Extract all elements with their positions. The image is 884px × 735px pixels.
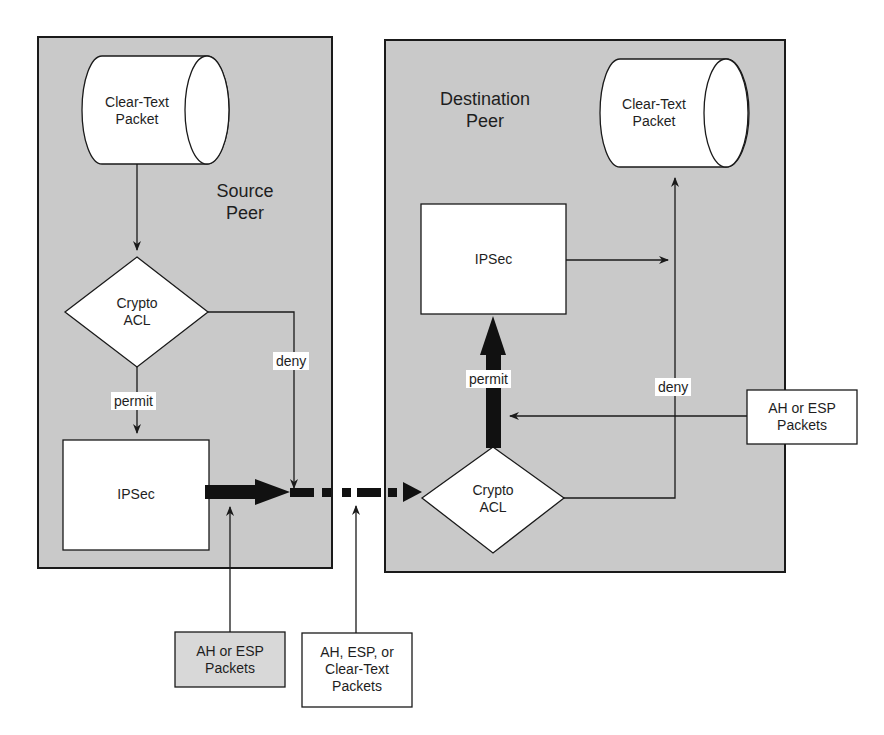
destination-cylinder-label-line1: Clear-Text [606,96,702,113]
transit-callout-line2: Clear-Text [302,661,412,678]
destination-acl-label-line2: ACL [453,499,533,516]
source-cylinder-label: Clear-Text Packet [90,94,184,128]
source-acl-label-line2: ACL [97,312,177,329]
destination-input-callout-line1: AH or ESP [747,400,857,417]
destination-peer-title-line1: Destination [420,88,550,110]
source-cylinder-label-line2: Packet [90,111,184,128]
source-acl-label: Crypto ACL [97,295,177,329]
source-acl-label-line1: Crypto [97,295,177,312]
destination-cylinder-label-line2: Packet [606,113,702,130]
transit-callout-line3: Packets [302,678,412,695]
destination-cylinder-label: Clear-Text Packet [606,96,702,130]
source-output-callout-line1: AH or ESP [175,643,285,660]
destination-acl-label-line1: Crypto [453,482,533,499]
source-permit-label: permit [111,392,156,410]
destination-permit-label: permit [466,370,511,388]
source-peer-title: Source Peer [190,180,300,224]
source-cylinder-label-line1: Clear-Text [90,94,184,111]
transit-callout-line1: AH, ESP, or [302,644,412,661]
destination-input-callout-line2: Packets [747,417,857,434]
destination-input-callout-label: AH or ESP Packets [747,400,857,434]
source-output-callout-line2: Packets [175,660,285,677]
transit-callout-label: AH, ESP, or Clear-Text Packets [302,644,412,695]
destination-peer-title-line2: Peer [420,110,550,132]
destination-acl-label: Crypto ACL [453,482,533,516]
destination-deny-label: deny [655,378,691,396]
destination-ipsec-label: IPSec [421,251,566,268]
source-peer-title-line2: Peer [190,202,300,224]
source-output-callout-label: AH or ESP Packets [175,643,285,677]
destination-peer-title: Destination Peer [420,88,550,132]
source-ipsec-label: IPSec [63,486,209,503]
source-deny-label: deny [273,352,309,370]
source-peer-title-line1: Source [190,180,300,202]
